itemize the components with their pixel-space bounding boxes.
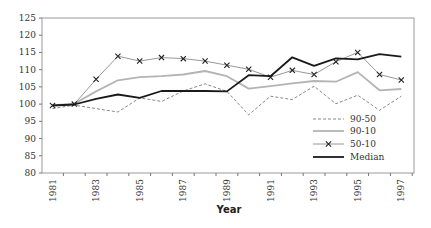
x-tick-label: 1983: [91, 179, 101, 202]
y-tick-label: 95: [25, 116, 37, 126]
legend-item-median: Median: [313, 152, 385, 162]
y-tick-label: 100: [19, 99, 36, 109]
series-median: [53, 54, 402, 105]
x-tick-label: 1987: [178, 179, 188, 202]
legend-label: Median: [350, 152, 385, 162]
y-tick-label: 90: [25, 134, 37, 144]
x-tick-label: 1993: [309, 179, 319, 202]
y-tick-label: 125: [19, 13, 36, 23]
x-tick-label: 1989: [222, 179, 232, 202]
series-line: [53, 71, 402, 105]
series-line: [53, 84, 402, 115]
x-tick-label: 1981: [48, 179, 58, 202]
series-90-10: [53, 71, 402, 105]
y-tick-label: 110: [19, 65, 36, 75]
x-tick-label: 1997: [396, 179, 406, 202]
y-tick-label: 80: [25, 168, 37, 178]
x-axis-title: Year: [216, 204, 242, 215]
legend: 90-5090-1050-10Median: [313, 114, 385, 162]
line-chart: 80859095100105110115120125 1981198319851…: [0, 0, 431, 228]
x-marker-icon: [333, 59, 338, 64]
legend-item-90-10: 90-10: [313, 126, 376, 136]
y-axis: 80859095100105110115120125: [19, 13, 42, 178]
series-line: [53, 54, 402, 105]
y-tick-label: 115: [19, 47, 36, 57]
y-tick-label: 120: [19, 30, 36, 40]
legend-label: 50-10: [350, 139, 376, 149]
x-marker-icon: [94, 77, 99, 82]
x-tick-label: 1995: [353, 179, 363, 202]
y-tick-label: 105: [19, 82, 36, 92]
legend-item-90-50: 90-50: [313, 114, 376, 124]
series-90-50: [53, 84, 402, 115]
series-layer: [50, 50, 404, 115]
x-axis: 198119831985198719891991199319951997: [48, 173, 413, 202]
legend-label: 90-50: [350, 114, 376, 124]
x-tick-label: 1985: [135, 179, 145, 202]
legend-item-50-10: 50-10: [313, 139, 376, 149]
x-tick-label: 1991: [266, 179, 276, 202]
legend-label: 90-10: [350, 126, 376, 136]
plot-frame: [42, 18, 414, 173]
x-marker-icon: [377, 72, 382, 77]
x-marker-icon: [355, 50, 360, 55]
y-tick-label: 85: [25, 151, 37, 161]
